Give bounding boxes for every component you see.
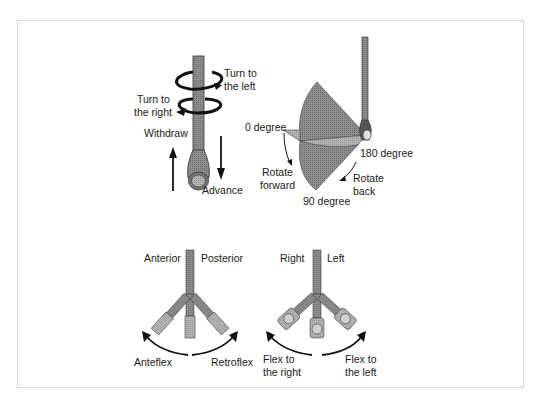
- retroflex-arrow-icon: [192, 331, 238, 355]
- turn-left-label: Turn to the left: [224, 67, 260, 92]
- endoscope-shaft-icon: [188, 56, 210, 190]
- lateral-flex-panel: Right Left Flex to the right Flex to the…: [263, 250, 379, 378]
- rotate-back-label: Rotate back: [353, 172, 387, 197]
- anterior-label: Anterior: [144, 252, 181, 264]
- zero-degree-label: 0 degree: [245, 121, 287, 133]
- rotate-forward-arrow-icon: [284, 133, 292, 166]
- ninety-degree-label: 90 degree: [303, 195, 350, 207]
- flex-right-arrow-icon: [266, 331, 312, 355]
- shaft-panel: Turn to the left Turn to the right Withd…: [134, 56, 260, 196]
- flex-left-label: Flex to the left: [345, 353, 379, 378]
- rotate-forward-label: Rotate forward: [260, 166, 296, 191]
- scope-tip-shaft-icon: [360, 37, 372, 140]
- retroflex-label: Retroflex: [211, 356, 254, 368]
- left-label: Left: [327, 252, 345, 264]
- withdraw-arrow-icon: [169, 147, 177, 191]
- rotation-panel: 0 degree 180 degree 90 degree Rotate for…: [245, 37, 413, 207]
- turn-right-label: Turn to the right: [134, 93, 173, 118]
- posterior-label: Posterior: [201, 252, 244, 264]
- right-label: Right: [280, 252, 305, 264]
- withdraw-label: Withdraw: [144, 127, 188, 139]
- anteflex-arrow-icon: [142, 331, 188, 355]
- flex-left-arrow-icon: [322, 331, 366, 355]
- flex-right-label: Flex to the right: [263, 353, 301, 378]
- endoscope-maneuver-diagram: Turn to the left Turn to the right Withd…: [0, 0, 544, 404]
- anteflex-label: Anteflex: [134, 356, 173, 368]
- advance-arrow-icon: [217, 136, 225, 180]
- advance-label: Advance: [202, 184, 243, 196]
- anteflex-panel: Anterior Posterior Anteflex Retroflex: [134, 250, 254, 368]
- one-eighty-degree-label: 180 degree: [360, 147, 413, 159]
